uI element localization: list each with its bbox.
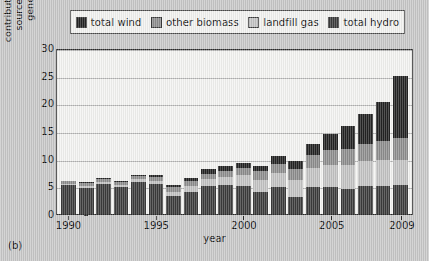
bar-segment-total-hydro xyxy=(341,189,356,214)
x-tick-label: 2005 xyxy=(319,220,343,231)
bar-segment-landfill-gas xyxy=(201,179,216,186)
bar-segment-total-hydro xyxy=(149,184,164,214)
bar-1998 xyxy=(201,169,216,214)
figure-panel-b: total wind other biomass landfill gas to… xyxy=(0,0,429,261)
bar-1999 xyxy=(218,166,233,214)
bar-segment-landfill-gas xyxy=(288,180,303,197)
bar-segment-landfill-gas xyxy=(218,177,233,185)
bar-segment-total-hydro xyxy=(218,185,233,214)
bar-segment-other-biomass xyxy=(358,144,373,162)
legend-swatch-landfill-gas xyxy=(248,17,259,28)
bar-segment-total-wind xyxy=(358,114,373,143)
bar-2008 xyxy=(376,102,391,214)
bar-1993 xyxy=(114,181,129,214)
bar-segment-total-hydro xyxy=(184,192,199,214)
bar-segment-other-biomass xyxy=(376,141,391,160)
y-tick-label: 25 xyxy=(41,72,54,82)
bar-segment-total-hydro xyxy=(323,187,338,214)
bar-segment-total-hydro xyxy=(79,188,94,214)
bar-segment-total-hydro xyxy=(61,185,76,214)
y-tick-label: 0 xyxy=(48,210,54,220)
bar-segment-total-hydro xyxy=(96,184,111,214)
bar-segment-total-hydro xyxy=(271,187,286,214)
legend-swatch-total-hydro xyxy=(328,17,339,28)
bar-2000 xyxy=(236,163,251,214)
plot-area xyxy=(56,49,413,215)
bar-segment-landfill-gas xyxy=(323,165,338,187)
bar-2004 xyxy=(306,144,321,214)
bar-segment-total-wind xyxy=(376,102,391,141)
y-tick-label: 20 xyxy=(41,99,54,109)
legend-label-total-wind: total wind xyxy=(91,17,142,28)
bar-segment-total-wind xyxy=(306,144,321,155)
bar-segment-landfill-gas xyxy=(271,173,286,187)
x-tick-label: 1990 xyxy=(56,220,80,231)
bar-segment-total-hydro xyxy=(236,186,251,214)
bar-2007 xyxy=(358,114,373,214)
bar-segment-other-biomass xyxy=(288,169,303,180)
bar-2002 xyxy=(271,156,286,214)
bar-segment-landfill-gas xyxy=(306,168,321,188)
bar-1996 xyxy=(166,185,181,214)
bar-segment-landfill-gas xyxy=(341,165,356,189)
x-tick-label: 2000 xyxy=(231,220,255,231)
bar-segment-landfill-gas xyxy=(358,161,373,186)
legend-label-landfill-gas: landfill gas xyxy=(263,17,319,28)
bar-segment-other-biomass xyxy=(323,150,338,164)
bar-segment-total-hydro xyxy=(131,182,146,214)
chart-legend: total wind other biomass landfill gas to… xyxy=(70,10,405,34)
bar-segment-total-hydro xyxy=(201,186,216,214)
legend-swatch-other-biomass xyxy=(151,17,162,28)
bar-segment-other-biomass xyxy=(341,149,356,165)
bar-1997 xyxy=(184,178,199,214)
bar-segment-total-hydro xyxy=(253,192,268,214)
bar-segment-landfill-gas xyxy=(376,160,391,185)
bar-segment-total-hydro xyxy=(358,186,373,214)
bar-1991 xyxy=(79,182,94,214)
y-axis-ticks: 051015202530 xyxy=(30,41,54,223)
x-tick-label: 2009 xyxy=(389,220,413,231)
bar-segment-total-hydro xyxy=(114,187,129,214)
bar-segment-other-biomass xyxy=(393,138,408,160)
bar-segment-landfill-gas xyxy=(236,175,251,186)
bar-1992 xyxy=(96,178,111,214)
bar-segment-total-wind xyxy=(323,134,338,150)
legend-item-landfill-gas: landfill gas xyxy=(248,17,319,28)
bar-1990 xyxy=(61,181,76,214)
legend-label-total-hydro: total hydro xyxy=(343,17,399,28)
legend-swatch-total-wind xyxy=(76,17,87,28)
legend-label-other-biomass: other biomass xyxy=(166,17,239,28)
bar-segment-total-wind xyxy=(393,76,408,139)
y-tick-label: 15 xyxy=(41,127,54,137)
x-axis-ticks: 19901995200020052009 xyxy=(56,216,413,232)
bar-1994 xyxy=(131,175,146,214)
bar-2009 xyxy=(393,76,408,214)
bar-segment-landfill-gas xyxy=(393,160,408,185)
x-axis-label: year xyxy=(0,233,429,244)
bar-segment-other-biomass xyxy=(253,171,268,179)
y-tick-label: 5 xyxy=(48,182,54,192)
bar-2001 xyxy=(253,166,268,214)
y-tick-label: 30 xyxy=(41,44,54,54)
bar-segment-total-wind xyxy=(341,126,356,149)
panel-label: (b) xyxy=(8,240,22,251)
legend-item-other-biomass: other biomass xyxy=(151,17,239,28)
bar-segment-total-hydro xyxy=(306,187,321,214)
bar-1995 xyxy=(149,175,164,214)
legend-item-total-hydro: total hydro xyxy=(328,17,399,28)
bar-2006 xyxy=(341,126,356,215)
bar-segment-other-biomass xyxy=(306,155,321,168)
bar-series-group xyxy=(57,50,412,214)
bar-segment-other-biomass xyxy=(236,168,251,175)
bar-2005 xyxy=(323,134,338,214)
bar-2003 xyxy=(288,161,303,214)
bar-segment-total-hydro xyxy=(393,185,408,214)
bar-segment-total-hydro xyxy=(166,196,181,214)
bar-segment-total-wind xyxy=(288,161,303,169)
x-tick-label: 1995 xyxy=(144,220,168,231)
bar-segment-total-hydro xyxy=(376,186,391,214)
bar-segment-landfill-gas xyxy=(253,180,268,192)
bar-segment-total-hydro xyxy=(288,197,303,214)
y-tick-label: 10 xyxy=(41,155,54,165)
legend-item-total-wind: total wind xyxy=(76,17,142,28)
